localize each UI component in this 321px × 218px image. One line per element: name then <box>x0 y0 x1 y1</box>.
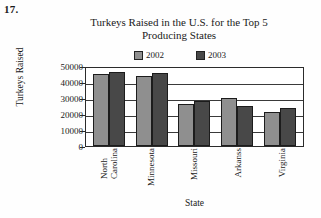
bar-2002 <box>221 98 237 146</box>
x-category-label-line: Missouri <box>189 148 199 180</box>
bar-group <box>93 68 125 146</box>
x-axis-category-labels: NorthCarolinaMinnesotaMissouriArkanssVir… <box>85 148 304 204</box>
bar-groups <box>86 68 303 146</box>
x-category-0: NorthCarolina <box>89 148 125 204</box>
x-category-3: Arkanss <box>220 148 256 204</box>
bar-2003 <box>152 73 168 146</box>
x-category-2: Missouri <box>176 148 212 204</box>
legend-label-2003: 2003 <box>208 51 226 60</box>
bar-group <box>264 68 296 146</box>
chart-title: Turkeys Raised in the U.S. for the Top 5… <box>50 16 308 42</box>
x-category-label-line: Carolina <box>109 148 119 179</box>
x-category-4: Virginia <box>264 148 300 204</box>
x-category-label-line: Virginia <box>277 148 287 177</box>
chart-page: 17. Turkeys Raised in the U.S. for the T… <box>0 0 321 218</box>
bar-group <box>178 68 210 146</box>
bar-2002 <box>93 74 109 146</box>
chart-title-line-1: Turkeys Raised in the U.S. for the Top 5 <box>50 16 308 29</box>
legend-item-2002: 2002 <box>134 51 164 60</box>
problem-number: 17. <box>4 3 18 15</box>
bar-2003 <box>194 101 210 146</box>
x-axis-title: State <box>85 198 304 208</box>
x-category-label-line: Minnesota <box>146 148 156 186</box>
x-category-label: NorthCarolina <box>99 148 119 179</box>
legend-swatch-2002 <box>134 51 143 60</box>
legend-swatch-2003 <box>196 51 205 60</box>
x-category-label: Minnesota <box>146 148 156 186</box>
bar-2003 <box>280 108 296 146</box>
bar-2003 <box>109 72 125 146</box>
bar-2002 <box>178 104 194 146</box>
x-category-label: Virginia <box>277 148 287 177</box>
x-category-1: Minnesota <box>133 148 169 204</box>
plot-area <box>85 67 304 147</box>
x-category-label: Arkanss <box>233 148 243 178</box>
y-axis-title: Turkeys Raised <box>15 41 25 113</box>
bar-group <box>136 68 168 146</box>
x-category-label-line: North <box>99 158 109 179</box>
y-axis-tick-labels: 01000020000300004000050000 <box>49 62 83 152</box>
bar-2002 <box>264 112 280 146</box>
chart-legend: 2002 2003 <box>100 51 260 60</box>
bar-2002 <box>136 76 152 146</box>
legend-item-2003: 2003 <box>196 51 226 60</box>
legend-label-2002: 2002 <box>146 51 164 60</box>
x-category-label-line: Arkanss <box>233 148 243 178</box>
x-category-label: Missouri <box>189 148 199 180</box>
bar-group <box>221 68 253 146</box>
chart-title-line-2: Producing States <box>50 29 308 42</box>
bar-2003 <box>237 106 253 146</box>
